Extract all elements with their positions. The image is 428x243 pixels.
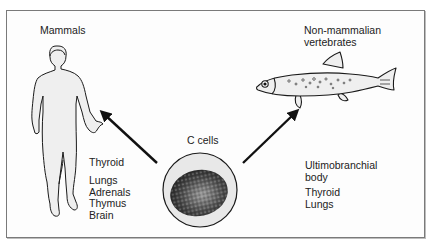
c-cell-icon xyxy=(163,153,237,227)
organ-label: body xyxy=(305,172,377,184)
mammal-secondary-organs: Lungs Adrenals Thymus Brain xyxy=(89,175,130,221)
title-line: vertebrates xyxy=(304,37,381,49)
non-mammalian-title: Non-mammalian vertebrates xyxy=(304,25,381,48)
organ-label: Ultimobranchial xyxy=(305,160,377,172)
organ-label: Thymus xyxy=(89,198,130,210)
organ-label: Thyroid xyxy=(305,187,340,199)
organ-label: Lungs xyxy=(89,175,130,187)
vertebrate-secondary-organs: Thyroid Lungs xyxy=(305,187,340,210)
organ-label: Lungs xyxy=(305,199,340,211)
mammals-title: Mammals xyxy=(40,24,86,36)
organ-label: Thyroid xyxy=(89,157,124,169)
c-cells-label: C cells xyxy=(187,134,219,146)
organ-label: Brain xyxy=(89,210,130,222)
arrow-to-vertebrates xyxy=(243,113,295,163)
mammal-primary-organs: Thyroid xyxy=(89,157,124,169)
vertebrate-primary-organs: Ultimobranchial body xyxy=(305,160,377,183)
title-line: Non-mammalian xyxy=(304,25,381,37)
